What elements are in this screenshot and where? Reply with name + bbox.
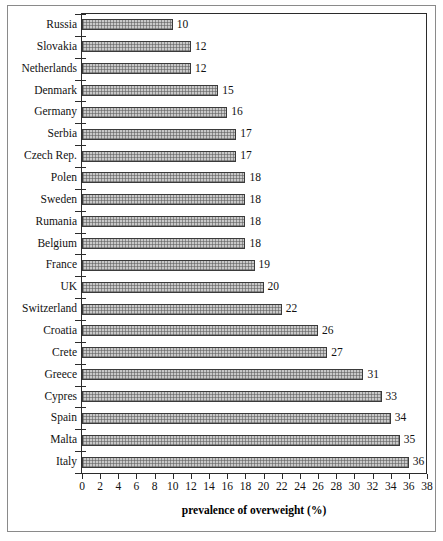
value-axis-tick-label: 18: [240, 481, 252, 493]
value-axis-tick: [136, 474, 137, 479]
value-axis-tick-label: 24: [294, 481, 306, 493]
category-label: France: [46, 259, 77, 271]
bar-value-label: 15: [222, 85, 234, 97]
category-axis-tick: [75, 58, 86, 59]
category-label: Crete: [52, 347, 77, 359]
bar: [82, 129, 236, 140]
category-axis-tick: [75, 123, 86, 124]
bars-layer: 1012121516171718181818192022262731333435…: [82, 14, 427, 473]
bar: [82, 325, 318, 336]
category-axis-tick: [75, 473, 86, 474]
bar: [82, 260, 255, 271]
category-axis-tick: [75, 189, 86, 190]
bar-value-label: 26: [322, 325, 334, 337]
value-axis-tick: [100, 474, 101, 479]
value-axis-tick-label: 28: [330, 481, 342, 493]
value-axis-tick-label: 32: [367, 481, 379, 493]
value-axis-tick: [227, 474, 228, 479]
value-axis-tick: [300, 474, 301, 479]
value-axis-tick: [318, 474, 319, 479]
value-axis-tick: [155, 474, 156, 479]
value-axis-tick: [336, 474, 337, 479]
category-label: UK: [60, 281, 77, 293]
value-axis-tick-label: 30: [349, 481, 361, 493]
category-axis-tick: [75, 167, 86, 168]
category-axis-tick: [75, 298, 86, 299]
category-axis-tick: [75, 342, 86, 343]
bar-value-label: 18: [249, 172, 261, 184]
value-axis-tick: [264, 474, 265, 479]
value-axis-tick: [427, 474, 428, 479]
bar-value-label: 17: [240, 128, 252, 140]
value-axis-tick-label: 6: [134, 481, 140, 493]
value-axis-tick-label: 10: [167, 481, 179, 493]
bar: [82, 413, 391, 424]
value-axis-tick: [118, 474, 119, 479]
bar-value-label: 20: [268, 281, 280, 293]
value-axis-tick-label: 8: [152, 481, 158, 493]
value-axis-tick: [354, 474, 355, 479]
value-axis-tick: [409, 474, 410, 479]
bar: [82, 369, 363, 380]
bar-value-label: 36: [413, 456, 425, 468]
bar: [82, 391, 382, 402]
bar-value-label: 35: [404, 434, 416, 446]
bar-value-label: 18: [249, 194, 261, 206]
bar-value-label: 18: [249, 238, 261, 250]
bar-value-label: 27: [331, 347, 343, 359]
category-label: Greece: [44, 369, 77, 381]
category-label: Denmark: [34, 85, 77, 97]
bar-value-label: 18: [249, 216, 261, 228]
bar-value-label: 17: [240, 150, 252, 162]
category-label: Cypres: [44, 391, 77, 403]
value-axis-tick: [245, 474, 246, 479]
category-label: Polen: [51, 172, 77, 184]
bar-value-label: 19: [259, 259, 271, 271]
bar-value-label: 34: [395, 412, 407, 424]
category-label: Switzerland: [22, 303, 77, 315]
category-axis-tick: [75, 364, 86, 365]
bar: [82, 282, 264, 293]
bar-value-label: 22: [286, 303, 298, 315]
bar-value-label: 31: [367, 369, 379, 381]
bar-value-label: 33: [386, 391, 398, 403]
bar: [82, 172, 245, 183]
value-axis-tick: [191, 474, 192, 479]
category-label: Sweden: [41, 194, 77, 206]
bar: [82, 457, 409, 468]
value-axis-tick: [82, 474, 83, 479]
value-axis-tick-label: 20: [258, 481, 270, 493]
category-axis-tick: [75, 451, 86, 452]
bar-value-label: 12: [195, 41, 207, 53]
value-axis-tick-label: 26: [312, 481, 324, 493]
category-label: Netherlands: [21, 63, 77, 75]
category-axis-tick: [75, 407, 86, 408]
bar: [82, 19, 173, 30]
category-label: Spain: [51, 412, 77, 424]
category-label: Croatia: [43, 325, 77, 337]
category-axis-tick: [75, 14, 86, 15]
category-axis-tick: [75, 254, 86, 255]
category-axis-tick: [75, 320, 86, 321]
category-axis-labels: RussiaSlovakiaNetherlandsDenmarkGermanyS…: [0, 14, 77, 473]
bar: [82, 107, 227, 118]
category-axis-tick: [75, 429, 86, 430]
category-label: Malta: [50, 434, 77, 446]
category-label: Belgium: [37, 238, 77, 250]
category-label: Slovakia: [37, 41, 77, 53]
bar: [82, 41, 191, 52]
category-axis-tick: [75, 80, 86, 81]
value-axis-tick: [282, 474, 283, 479]
chart-figure: RussiaSlovakiaNetherlandsDenmarkGermanyS…: [0, 0, 443, 541]
value-axis-tick: [173, 474, 174, 479]
category-axis-tick: [75, 386, 86, 387]
bar: [82, 238, 245, 249]
bar: [82, 85, 218, 96]
value-axis-tick-label: 22: [276, 481, 288, 493]
bar: [82, 151, 236, 162]
bar-value-label: 10: [177, 19, 189, 31]
value-axis-tick-label: 4: [115, 481, 121, 493]
value-axis-tick-label: 12: [185, 481, 197, 493]
category-label: Germany: [34, 106, 77, 118]
category-label: Italy: [56, 456, 77, 468]
